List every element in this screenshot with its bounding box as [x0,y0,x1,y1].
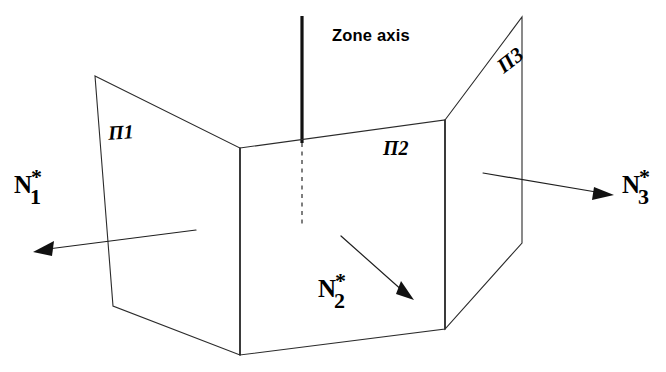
plane-2-label: Π2 [383,138,409,158]
normal-2-subscript: 2 [334,288,345,313]
normal-1-arrowhead [33,241,54,256]
plane-1-label: Π1 [107,121,134,142]
normal-2-label: N*2 [318,276,345,301]
plane-1-face [95,76,240,355]
zone-axis-label: Zone axis [332,27,410,44]
normal-3-subscript: 3 [638,184,649,209]
normal-1-subscript: 1 [30,184,41,209]
zone-axis-diagram: Zone axis Π1 Π2 Π3 N*1 N*2 N*3 [0,0,666,372]
diagram-canvas [0,0,666,372]
normal-1-label: N*1 [14,172,41,197]
normal-3-arrowhead [592,187,614,200]
normal-3-label: N*3 [622,172,649,197]
